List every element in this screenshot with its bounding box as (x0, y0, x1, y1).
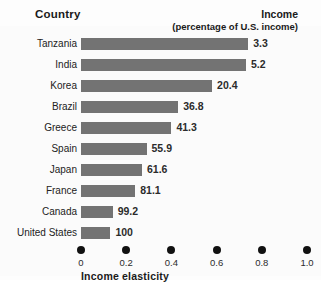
bar-row: Brazil36.8 (0, 99, 321, 120)
bar-value-label: 55.9 (152, 142, 172, 154)
bar (81, 59, 246, 71)
bar-value-label: 36.8 (183, 100, 203, 112)
bar-row: Spain55.9 (0, 141, 321, 162)
bar (81, 185, 135, 197)
x-axis-tick-dot-icon (303, 246, 311, 254)
bar-row: France81.1 (0, 183, 321, 204)
bar-row-country-label: India (55, 59, 77, 70)
bar-row: Japan61.6 (0, 162, 321, 183)
bar-row-country-label: Spain (51, 143, 77, 154)
x-axis-tick-label: 0.6 (203, 257, 231, 268)
bar-row-country-label: France (46, 185, 77, 196)
x-axis-tick-dot-icon (167, 246, 175, 254)
bar-row: United States100 (0, 225, 321, 246)
x-axis-tick-dot-icon (258, 246, 266, 254)
bar (81, 227, 110, 239)
bar-value-label: 5.2 (251, 58, 266, 70)
x-axis-tick-dot-icon (77, 246, 85, 254)
bar-row: India5.2 (0, 57, 321, 78)
bar-row: Greece41.3 (0, 120, 321, 141)
bar-row: Korea20.4 (0, 78, 321, 99)
bar (81, 122, 171, 134)
column-header-country: Country (35, 8, 80, 20)
column-header-income-sublabel: (percentage of U.S. income) (172, 21, 298, 32)
bar-row-country-label: Greece (44, 122, 77, 133)
bar (81, 206, 113, 218)
bar-value-label: 81.1 (140, 184, 160, 196)
x-axis-tick-label: 1.0 (293, 257, 321, 268)
x-axis-tick-label: 0.2 (112, 257, 140, 268)
bar-rows: Tanzania3.3India5.2Korea20.4Brazil36.8Gr… (0, 36, 321, 246)
bar (81, 143, 147, 155)
bar-row: Canada99.2 (0, 204, 321, 225)
x-axis-title: Income elasticity (81, 270, 169, 282)
bar-value-label: 99.2 (118, 205, 138, 217)
bar-row-country-label: Canada (42, 206, 77, 217)
bar-row-country-label: Korea (50, 80, 77, 91)
x-axis: Income elasticity 00.20.40.60.81.0 (0, 246, 321, 280)
bar-row: Tanzania3.3 (0, 36, 321, 57)
bar-value-label: 100 (115, 226, 133, 238)
bar-value-label: 41.3 (176, 121, 196, 133)
x-axis-tick-label: 0.4 (157, 257, 185, 268)
bar-value-label: 3.3 (253, 37, 268, 49)
column-header-income: Income (261, 8, 298, 20)
bar-row-country-label: United States (17, 227, 77, 238)
bar (81, 80, 212, 92)
bar-value-label: 61.6 (147, 163, 167, 175)
x-axis-tick-label: 0.8 (248, 257, 276, 268)
x-axis-tick-dot-icon (122, 246, 130, 254)
bar (81, 164, 142, 176)
x-axis-tick-dot-icon (213, 246, 221, 254)
x-axis-tick-label: 0 (67, 257, 95, 268)
bar-row-country-label: Brazil (52, 101, 77, 112)
bar (81, 38, 248, 50)
bar-value-label: 20.4 (217, 79, 237, 91)
bar (81, 101, 178, 113)
bar-row-country-label: Tanzania (37, 38, 77, 49)
bar-row-country-label: Japan (50, 164, 77, 175)
